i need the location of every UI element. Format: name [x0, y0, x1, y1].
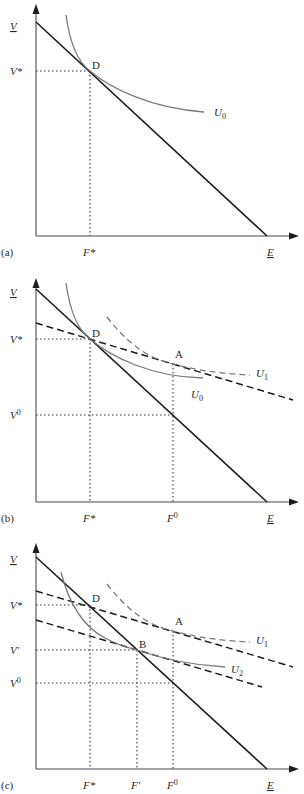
- point-d-label: D: [92, 592, 100, 604]
- u2-label: U2: [231, 663, 243, 678]
- f-star-label: F*: [82, 779, 96, 791]
- panel-label-c: (c): [1, 779, 14, 792]
- y-axis-label: V: [10, 286, 18, 298]
- f-zero-label: F0: [166, 511, 178, 524]
- y-axis-label: V: [10, 553, 18, 565]
- indifference-curve-u0: [66, 283, 203, 378]
- panel-b: V E V* V0 F* F0 D A U1 U0 (b): [1, 278, 299, 525]
- u1-label: U1: [256, 367, 268, 382]
- point-d-label: D: [92, 59, 100, 71]
- v-zero-label: V0: [10, 676, 21, 689]
- point-d-label: D: [92, 327, 100, 339]
- u0-label: U0: [214, 106, 226, 121]
- x-axis-arrow-icon: [289, 233, 299, 240]
- panel-a: V E V* F* D U0 (a): [1, 4, 299, 259]
- point-a-label: A: [175, 615, 183, 627]
- v-star-label: V*: [10, 65, 23, 77]
- u1-label: U1: [256, 634, 268, 649]
- f-star-label: F*: [82, 246, 96, 258]
- x-axis-label: E: [266, 779, 274, 791]
- v-zero-label: V0: [10, 408, 21, 421]
- f-star-label: F*: [82, 512, 96, 524]
- y-axis-label: V: [10, 20, 18, 32]
- indifference-curve-u0: [66, 15, 204, 112]
- v-star-label: V*: [10, 333, 23, 345]
- panel-label-a: (a): [1, 246, 14, 259]
- u0-label: U0: [191, 388, 203, 403]
- y-axis-arrow-icon: [33, 4, 40, 14]
- budget-line: [36, 22, 267, 236]
- panel-label-b: (b): [1, 512, 14, 525]
- y-axis-arrow-icon: [33, 543, 40, 553]
- indifference-curve-u2: [61, 572, 225, 667]
- panel-c: V E V* V′ V0 F* F′ F0 D A B U1 U2 (c): [1, 543, 299, 792]
- f-zero-label: F0: [166, 778, 178, 791]
- y-axis-arrow-icon: [33, 278, 40, 288]
- v-prime-label: V′: [10, 644, 20, 656]
- x-axis-label: E: [266, 512, 274, 524]
- labor-leisure-diagram: V E V* F* D U0 (a) V E V* V0 F* F0 D A U…: [0, 0, 304, 794]
- budget-line: [36, 289, 267, 502]
- v-star-label: V*: [10, 599, 23, 611]
- point-a-label: A: [175, 348, 183, 360]
- point-b-label: B: [139, 638, 146, 650]
- x-axis-arrow-icon: [289, 766, 299, 773]
- x-axis-arrow-icon: [289, 499, 299, 506]
- f-prime-label: F′: [130, 779, 141, 791]
- x-axis-label: E: [266, 246, 274, 258]
